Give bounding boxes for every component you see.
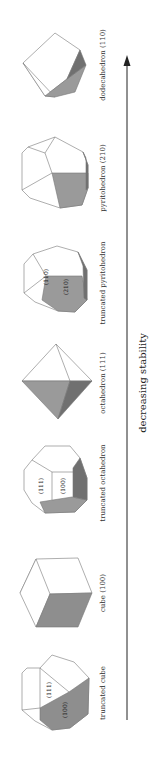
face-label: (100) [61, 702, 68, 718]
shape-label: truncated cube [99, 666, 107, 720]
truncated-cube-shape [0, 0, 150, 763]
face-label: (111) [45, 682, 52, 698]
